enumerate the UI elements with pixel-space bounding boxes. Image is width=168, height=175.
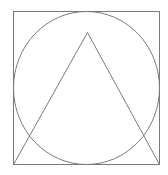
diagram-svg [0, 0, 168, 175]
geometry-diagram [0, 0, 168, 175]
background [0, 0, 168, 175]
